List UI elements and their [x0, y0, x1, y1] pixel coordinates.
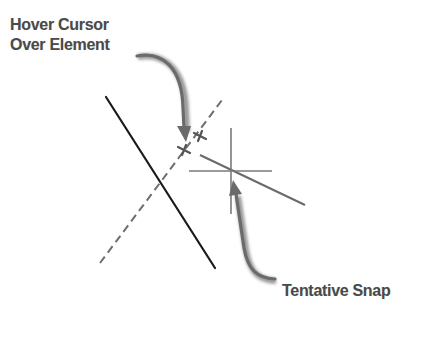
hover-cursor-label: Hover Cursor Over Element: [10, 15, 110, 55]
tentative-snap-label: Tentative Snap: [282, 281, 390, 301]
solid-element-line: [106, 97, 215, 268]
hover-arrow-icon: [137, 55, 191, 142]
hover-label-line-2: Over Element: [10, 35, 110, 55]
hover-label-line-1: Hover Cursor: [10, 15, 110, 35]
gray-element-line: [200, 155, 305, 205]
snap-arrow-icon: [229, 180, 276, 281]
tentative-snap-crosshair-icon: [189, 128, 272, 214]
